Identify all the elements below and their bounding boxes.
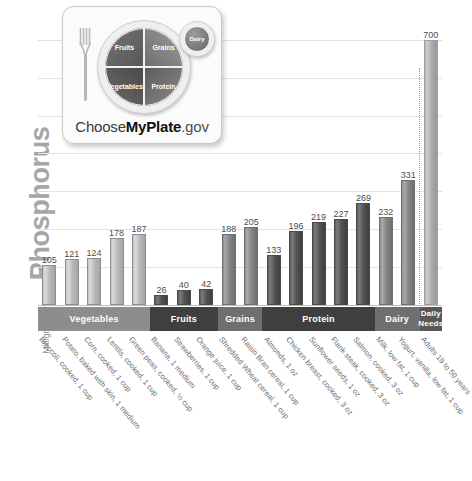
plate-graphic: Fruits Grains Vegetables Protein [97,20,191,114]
bar: 26 [154,295,168,305]
bar: 105 [42,265,56,305]
band-segment-dairy: Dairy [375,307,420,331]
myplate-wordmark: ChooseMyPlate.gov [63,118,221,135]
band-segment-protein: Protein [262,307,374,331]
gridline [38,153,442,154]
bar-value-label: 133 [266,245,281,255]
bar-value-label: 187 [131,224,146,234]
bar-value-label: 40 [179,280,189,290]
plate-section-vegetables: Vegetables [105,67,144,106]
bar: 227 [334,219,348,305]
dairy-label: Dairy [184,26,210,52]
bar: 205 [244,227,258,305]
bar: 121 [65,259,79,305]
bar: 331 [401,180,415,305]
bar-value-label: 196 [289,221,304,231]
bar-value-label: 269 [356,193,371,203]
bar: 187 [132,234,146,305]
bar-value-label: 26 [156,285,166,295]
bar-value-label: 700 [423,30,438,40]
wordmark-choose: Choose [75,118,126,135]
bar-value-label: 121 [64,249,79,259]
x-axis-baseline [38,305,442,306]
bar: 178 [110,238,124,305]
bar-value-label: 205 [244,217,259,227]
band-segment-vegetables: Vegetables [38,307,150,331]
wordmark-myplate: MyPlate [126,118,181,135]
bar: 124 [87,258,101,305]
gridline [38,191,442,192]
bar-value-label: 42 [201,279,211,289]
bar-value-label: 232 [378,207,393,217]
band-segment-daily-needs: Daily Needs [420,307,442,331]
band-segment-grains: Grains [218,307,263,331]
wordmark-gov: .gov [181,118,209,135]
plate-section-protein: Protein [144,67,183,106]
x-axis-tick-labels: Broccoli, cooked, 1 cupPotato, baked wit… [0,331,448,481]
bar: 196 [289,231,303,305]
bar-value-label: 188 [221,224,236,234]
bar-value-label: 178 [109,228,124,238]
food-group-band: VegetablesFruitsGrainsProteinDairyDaily … [38,307,442,331]
bar-value-label: 105 [42,255,57,265]
daily-needs-separator [419,68,420,306]
bar-value-label: 219 [311,212,326,222]
bar: 232 [379,217,393,305]
bar: 40 [177,290,191,305]
bar: 700 [424,40,438,305]
bar-value-label: 227 [333,209,348,219]
plate-section-fruits: Fruits [105,28,144,67]
bar: 188 [222,234,236,305]
bar: 42 [199,289,213,305]
myplate-logo-card: Fruits Grains Vegetables Protein Dairy C… [62,6,222,144]
bar: 219 [312,222,326,305]
bar-value-label: 124 [87,248,102,258]
bar-value-label: 331 [401,170,416,180]
band-segment-fruits: Fruits [150,307,217,331]
bar: 133 [267,255,281,305]
dairy-circle: Dairy [179,21,215,57]
bar: 269 [356,203,370,305]
plate-section-grains: Grains [144,28,183,67]
fork-icon [79,27,92,101]
